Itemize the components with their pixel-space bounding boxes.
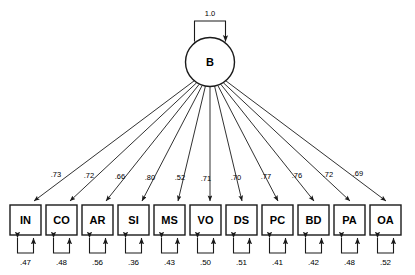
residual-loop-AR	[90, 238, 106, 253]
indicator-label-PA: PA	[342, 214, 357, 226]
indicator-label-DS: DS	[234, 214, 249, 226]
indicator-label-BD: BD	[306, 214, 322, 226]
factor-variance-label: 1.0	[205, 9, 215, 18]
loading-label-VO: .71	[201, 174, 211, 183]
residual-labels: .47 .48 .56 .36 .43 .50 .51 .41 .42 .48 …	[20, 258, 392, 267]
residual-label-PA: .48	[344, 258, 356, 267]
loading-path-BD	[221, 84, 314, 201]
loading-label-PA: .72	[323, 170, 333, 179]
residual-label-SI: .36	[128, 258, 140, 267]
indicator-label-MS: MS	[161, 214, 178, 226]
loading-label-PC: .77	[261, 172, 271, 181]
residual-loop-PC	[270, 238, 286, 253]
loading-label-AR: .66	[115, 172, 125, 181]
loading-path-AR	[106, 84, 199, 201]
residual-loop-PA	[342, 238, 358, 253]
residual-loop-OA	[378, 238, 394, 253]
residual-loop-BD	[306, 238, 322, 253]
loading-path-CO	[70, 83, 197, 201]
loading-path-IN	[34, 81, 194, 201]
residual-loops	[18, 238, 394, 253]
loading-label-CO: .72	[84, 171, 94, 180]
loading-path-MS	[178, 86, 205, 201]
indicator-label-SI: SI	[128, 214, 138, 226]
residual-loop-DS	[234, 238, 250, 253]
loading-label-SI: .80	[145, 173, 155, 182]
loading-path-SI	[142, 85, 202, 201]
residual-label-BD: .42	[308, 258, 320, 267]
path-diagram: 1.0 B .73 .72 .66 .80 .52 .71 .70 .77 .7…	[0, 0, 415, 275]
indicator-label-PC: PC	[270, 214, 285, 226]
loading-label-IN: .73	[51, 170, 61, 179]
loading-label-DS: .70	[231, 173, 241, 182]
loading-path-OA	[226, 81, 386, 201]
residual-label-OA: .52	[380, 258, 392, 267]
indicator-label-VO: VO	[198, 214, 214, 226]
indicator-label-IN: IN	[20, 214, 31, 226]
residual-label-IN: .47	[20, 258, 32, 267]
residual-loop-MS	[162, 238, 178, 253]
residual-loop-IN	[18, 238, 34, 253]
residual-loop-VO	[198, 238, 214, 253]
loading-label-BD: .76	[292, 171, 302, 180]
indicator-label-AR: AR	[90, 214, 106, 226]
factor-label: B	[206, 56, 214, 68]
residual-label-PC: .41	[272, 258, 284, 267]
loading-label-MS: .52	[175, 173, 185, 182]
residual-label-AR: .56	[92, 258, 104, 267]
residual-label-DS: .51	[236, 258, 248, 267]
loading-path-PA	[223, 83, 350, 201]
residual-label-VO: .50	[200, 258, 212, 267]
loading-path-PC	[218, 85, 278, 201]
residual-loop-CO	[54, 238, 70, 253]
residual-loop-SI	[126, 238, 142, 253]
residual-label-CO: .48	[56, 258, 68, 267]
indicator-label-OA: OA	[377, 214, 394, 226]
loading-labels: .73 .72 .66 .80 .52 .71 .70 .77 .76 .72 …	[51, 169, 363, 183]
loading-path-DS	[215, 86, 242, 201]
residual-label-MS: .43	[164, 258, 176, 267]
indicator-label-CO: CO	[53, 214, 70, 226]
loading-label-OA: .69	[353, 169, 363, 178]
